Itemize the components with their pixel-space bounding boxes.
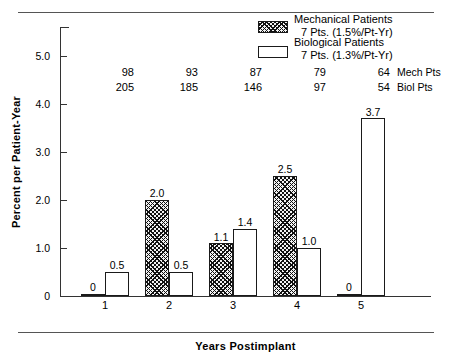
bar-value-label: 3.7 (366, 107, 381, 118)
x-axis-tick-label: 1 (102, 300, 108, 311)
bar-biological-year-5: 3.7 (361, 118, 385, 296)
bar-value-label: 0.5 (110, 260, 125, 271)
bar-value-label: 1.4 (238, 217, 253, 228)
y-axis-tick-label: 1.0 (35, 243, 50, 254)
x-axis-tick-label: 5 (358, 300, 364, 311)
legend-label-mechanical-title: Mechanical Patients (294, 13, 392, 25)
figure-rule-bottom (18, 332, 434, 333)
y-axis-tick-label: 3.0 (35, 147, 50, 158)
x-axis-tick-label: 3 (230, 300, 236, 311)
y-axis-tick-label: 4.0 (35, 99, 50, 110)
bar-mechanical-year-2: 2.0 (145, 200, 169, 296)
bar-biological-year-2: 0.5 (169, 272, 193, 296)
bar-biological-year-3: 1.4 (233, 229, 257, 296)
bar-value-label: 2.5 (278, 164, 293, 175)
y-axis-tick-label: 2.0 (35, 195, 50, 206)
bar-value-label: 1.1 (214, 232, 229, 243)
bar-value-label: 2.0 (150, 188, 165, 199)
bars-layer: 02.01.12.500.50.51.41.03.7 (60, 27, 431, 297)
bar-value-label: 0 (346, 282, 352, 293)
bar-mechanical-year-5: 0 (337, 294, 361, 296)
y-axis-tick-label: 0 (44, 291, 50, 302)
y-axis-title: Percent per Patient-Year (10, 96, 22, 228)
bar-biological-year-1: 0.5 (105, 272, 129, 296)
x-axis-tick-label: 4 (294, 300, 300, 311)
x-axis-tick-label: 2 (166, 300, 172, 311)
bar-mechanical-year-4: 2.5 (273, 176, 297, 296)
bar-value-label: 1.0 (302, 236, 317, 247)
bar-value-label: 0 (90, 282, 96, 293)
plot-area: Percent per Patient-Year 01.02.03.04.05.… (60, 27, 431, 297)
x-axis-title: Years Postimplant (60, 340, 431, 352)
bar-biological-year-4: 1.0 (297, 248, 321, 296)
bar-mechanical-year-3: 1.1 (209, 243, 233, 296)
bar-mechanical-year-1: 0 (81, 294, 105, 296)
bar-value-label: 0.5 (174, 260, 189, 271)
y-axis-tick-label: 5.0 (35, 51, 50, 62)
